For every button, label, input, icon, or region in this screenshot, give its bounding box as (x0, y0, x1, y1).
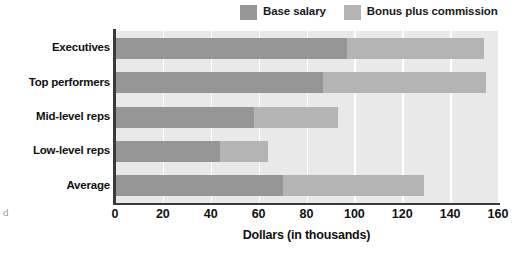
x-tick-label-20: 20 (156, 207, 170, 221)
bar-segment-bonus-plus-commission (254, 107, 338, 128)
x-axis-title: Dollars (in thousands) (115, 228, 498, 242)
x-tick-label-100: 100 (344, 207, 365, 221)
x-tick-label-40: 40 (204, 207, 218, 221)
x-axis-tick-labels: 020406080100120140160 (0, 207, 516, 225)
legend-swatch-icon-bonus-plus-commission (344, 5, 361, 20)
x-tick-label-80: 80 (300, 207, 314, 221)
x-tick-label-140: 140 (440, 207, 461, 221)
page-margin-artifact: d (3, 206, 9, 218)
y-axis-label-top-performers: Top performers (2, 76, 110, 88)
bar-segment-base-salary (115, 107, 254, 128)
bar-segment-bonus-plus-commission (347, 38, 483, 59)
gridline-160 (498, 31, 500, 203)
y-axis-labels: ExecutivesTop performersMid-level repsLo… (0, 31, 110, 203)
legend-entry-bonus-plus-commission: Bonus plus commission (344, 5, 498, 20)
bar-row (115, 72, 486, 93)
y-axis-label-executives: Executives (2, 41, 110, 53)
chart-figure: Base salary Bonus plus commission Execut… (0, 0, 516, 254)
chart-legend: Base salary Bonus plus commission (240, 3, 498, 21)
legend-label-bonus-plus-commission: Bonus plus commission (367, 6, 498, 18)
legend-label-base-salary: Base salary (263, 6, 326, 18)
x-tick-label-0: 0 (112, 207, 119, 221)
plot-area (115, 31, 498, 203)
y-axis-label-mid-level-reps: Mid-level reps (2, 110, 110, 122)
x-tick-label-120: 120 (392, 207, 413, 221)
x-tick-label-160: 160 (488, 207, 509, 221)
legend-swatch-icon-base-salary (240, 5, 257, 20)
bar-row (115, 107, 338, 128)
bar-segment-base-salary (115, 175, 283, 196)
bar-segment-bonus-plus-commission (220, 141, 268, 162)
legend-entry-base-salary: Base salary (240, 5, 326, 20)
y-axis-label-low-level-reps: Low-level reps (2, 144, 110, 156)
x-tick-label-60: 60 (252, 207, 266, 221)
y-axis-line (113, 29, 116, 205)
bar-segment-bonus-plus-commission (323, 72, 486, 93)
bar-segment-base-salary (115, 72, 323, 93)
bar-segment-base-salary (115, 38, 347, 59)
y-axis-label-average: Average (2, 179, 110, 191)
bar-segment-bonus-plus-commission (283, 175, 424, 196)
x-axis-line (113, 203, 500, 205)
bar-row (115, 38, 484, 59)
bar-row (115, 141, 268, 162)
bar-row (115, 175, 424, 196)
bar-segment-base-salary (115, 141, 220, 162)
